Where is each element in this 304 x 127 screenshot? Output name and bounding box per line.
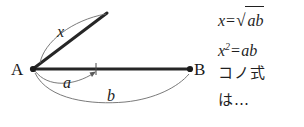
equation-rhs-ab: ab xyxy=(241,42,257,59)
point-a-dot xyxy=(30,66,36,72)
point-label-a: A xyxy=(11,61,23,78)
equation-x-squared-equals-ab: x2=ab xyxy=(218,33,304,60)
segment-x xyxy=(34,13,108,69)
note-line-kono-shiki: コノ式 xyxy=(218,60,304,87)
radical-sqrt: √ab xyxy=(236,6,264,34)
equation-relation-equals: = xyxy=(230,42,241,59)
segment-label-a: a xyxy=(63,75,71,91)
equation-block: x=√ab x2=ab コノ式 は… xyxy=(218,6,304,114)
segment-label-x: x xyxy=(57,24,64,40)
radical-sign-icon: √ xyxy=(236,11,245,30)
point-label-b: B xyxy=(194,61,205,78)
point-b-dot xyxy=(187,66,193,72)
segment-label-b: b xyxy=(107,88,115,104)
arrowhead-a xyxy=(90,72,97,78)
figure-canvas: A B x a b x=√ab x2=ab コノ式 は… xyxy=(0,0,304,127)
equation-relation-equals: = xyxy=(225,12,236,29)
radicand-ab: ab xyxy=(245,6,264,34)
note-line-wa-ellipsis: は… xyxy=(218,87,304,114)
equation-x-equals-sqrt-ab: x=√ab xyxy=(218,6,304,33)
